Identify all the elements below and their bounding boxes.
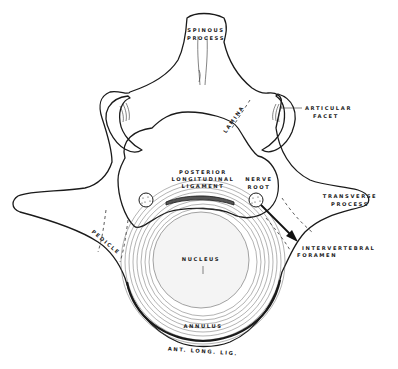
label-transverse-2: PROCESS (331, 201, 369, 207)
vertebra-diagram: SPINOUS PROCESS LAMINA ARTICULAR FACET P… (0, 0, 398, 369)
label-foramen-2: FORAMEN (297, 252, 337, 258)
label-annulus: ANNULUS (183, 323, 222, 329)
foramen-arrow-shaft (261, 205, 292, 236)
left-nerve-root (139, 193, 153, 207)
label-foramen-1: INTERVERTEBRAL (302, 245, 375, 251)
label-spinous-2: PROCESS (187, 35, 225, 41)
left-articular-facet (106, 96, 142, 152)
diagram-canvas: SPINOUS PROCESS LAMINA ARTICULAR FACET P… (0, 0, 398, 369)
spinous-lines (198, 36, 208, 85)
label-nerve-1: NERVE (245, 176, 272, 182)
pedicle-line-right-outer (282, 198, 312, 232)
label-facet-2: FACET (313, 113, 339, 119)
label-pll-1: POSTERIOR (179, 169, 227, 175)
label-facet-1: ARTICULAR (305, 105, 352, 111)
right-articular-facet (262, 94, 295, 152)
label-ant-long-lig: ANT. LONG. LIG. (168, 346, 239, 357)
label-pll-3: LIGAMENT (182, 183, 225, 189)
label-nucleus: NUCLEUS (182, 256, 220, 262)
right-nerve-root (249, 193, 263, 207)
label-pll-2: LONGITUDINAL (172, 176, 235, 182)
label-spinous-1: SPINOUS (187, 27, 224, 33)
label-nerve-2: ROOT (248, 184, 271, 190)
label-transverse-1: TRANSVERSE (323, 193, 377, 199)
label-pedicle: PEDICLE (90, 228, 121, 255)
